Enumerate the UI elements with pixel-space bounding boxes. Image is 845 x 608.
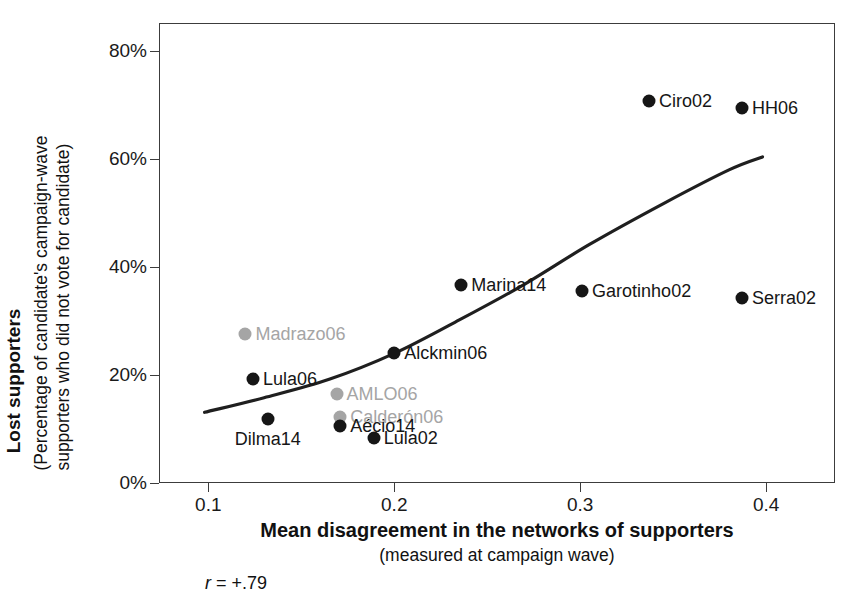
data-point-label: Ciro02 <box>659 92 712 110</box>
scatter-plot-figure: Lost supporters (Percentage of candidate… <box>0 0 845 608</box>
y-tick-label: 80% <box>109 41 147 60</box>
plot-area <box>159 23 835 483</box>
data-point-label: Lula06 <box>263 370 317 388</box>
x-tick-label: 0.3 <box>567 495 593 514</box>
data-point-label: Alckmin06 <box>404 344 487 362</box>
data-point-madrazo06[interactable] <box>239 327 252 340</box>
x-tick-mark <box>766 483 767 492</box>
data-point-acio14[interactable] <box>334 419 347 432</box>
y-tick-label: 20% <box>109 365 147 384</box>
data-point-label: HH06 <box>752 99 798 117</box>
data-point-label: Lula02 <box>384 429 438 447</box>
data-point-marina14[interactable] <box>455 278 468 291</box>
y-tick-label: 60% <box>109 149 147 168</box>
y-tick-label: 0% <box>120 473 147 492</box>
y-axis-title: Lost supporters <box>3 308 24 453</box>
data-point-hh06[interactable] <box>736 102 749 115</box>
x-tick-mark <box>580 483 581 492</box>
y-axis-subtitle-line1: (Percentage of candidate's campaign-wave <box>32 136 52 471</box>
x-tick-mark <box>394 483 395 492</box>
data-point-label: Marina14 <box>471 276 546 294</box>
data-point-serra02[interactable] <box>736 291 749 304</box>
data-point-alckmin06[interactable] <box>388 347 401 360</box>
x-tick-label: 0.4 <box>753 495 779 514</box>
x-tick-label: 0.2 <box>381 495 407 514</box>
y-tick-mark <box>150 483 159 484</box>
data-point-amlo06[interactable] <box>330 387 343 400</box>
data-point-label: Serra02 <box>752 289 816 307</box>
data-point-label: AMLO06 <box>347 385 418 403</box>
data-point-label: Dilma14 <box>235 430 301 448</box>
y-tick-label: 40% <box>109 257 147 276</box>
data-point-label: Garotinho02 <box>592 282 691 300</box>
x-tick-label: 0.1 <box>195 495 221 514</box>
data-point-garotinho02[interactable] <box>576 284 589 297</box>
data-point-label: Madrazo06 <box>255 325 345 343</box>
x-axis-title: Mean disagreement in the networks of sup… <box>159 519 835 542</box>
correlation-annotation: r = +.79 <box>205 573 267 594</box>
y-tick-mark <box>150 375 159 376</box>
y-tick-mark <box>150 159 159 160</box>
y-axis-subtitle-line2: supporters who did not vote for candidat… <box>54 144 74 471</box>
correlation-value: = +.79 <box>216 573 267 593</box>
y-tick-mark <box>150 267 159 268</box>
x-axis-subtitle: (measured at campaign wave) <box>159 545 835 566</box>
y-tick-mark <box>150 51 159 52</box>
data-point-dilma14[interactable] <box>261 412 274 425</box>
x-tick-mark <box>208 483 209 492</box>
data-point-lula02[interactable] <box>367 431 380 444</box>
data-point-ciro02[interactable] <box>643 95 656 108</box>
y-axis-title-group: Lost supporters (Percentage of candidate… <box>0 0 150 483</box>
data-point-lula06[interactable] <box>246 372 259 385</box>
